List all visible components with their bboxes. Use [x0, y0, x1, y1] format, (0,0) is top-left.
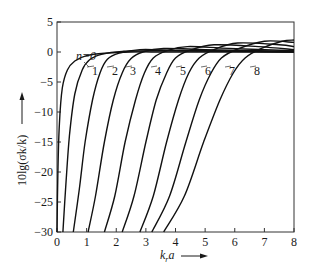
x-tick-label: 1 [84, 235, 90, 249]
y-tick-label: 5 [47, 15, 53, 29]
y-axis-label-text: 10lg(σk/k) [15, 135, 29, 186]
curve-n-6 [140, 43, 294, 232]
x-tick-label: 8 [291, 235, 297, 249]
x-axis-label-text: kra [160, 248, 174, 264]
y-tick-label: −20 [34, 165, 53, 179]
y-tick-label: 0 [47, 45, 53, 59]
curve-n-0 [57, 52, 294, 232]
curve-n-3 [88, 48, 294, 232]
x-tick-label: 0 [54, 235, 60, 249]
curve-label-n0: n=0 [76, 49, 96, 63]
x-tick-label: 6 [232, 235, 238, 249]
y-axis-label: 10lg(σk/k) [15, 92, 29, 186]
x-tick-label: 4 [173, 235, 179, 249]
chart-canvas: 50−5−10−15−20−25−30 012345678 n=01234567… [0, 0, 312, 269]
y-tick-label: −30 [34, 225, 53, 239]
x-axis-label: kra [160, 248, 208, 264]
y-axis-arrow-icon [20, 92, 25, 100]
x-tick-label: 5 [202, 235, 208, 249]
x-tick-label: 7 [261, 235, 267, 249]
x-axis-ticks: 012345678 [54, 228, 297, 249]
curve-n-7 [152, 41, 294, 232]
y-tick-label: −5 [40, 75, 53, 89]
y-tick-label: −25 [34, 195, 53, 209]
x-tick-label: 3 [143, 235, 149, 249]
y-tick-label: −10 [34, 105, 53, 119]
x-tick-label: 2 [113, 235, 119, 249]
y-tick-label: −15 [34, 135, 53, 149]
x-axis-arrow-icon [200, 254, 208, 259]
